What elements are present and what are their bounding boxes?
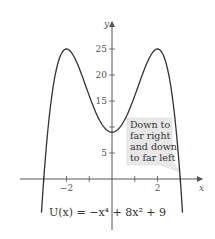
x-axis-label: x [199,183,204,193]
callout-line: far right [130,130,171,141]
callout-line: to far left [130,152,175,163]
y-tick-label: 25 [96,44,108,54]
x-tick-label: 2 [155,183,161,193]
x-tick-label: −2 [60,183,73,193]
function-caption: U(x) = −x⁴ + 8x² + 9 [0,206,215,219]
y-axis-label: y [103,19,110,29]
y-tick-label: 20 [96,70,108,80]
y-tick-label: 5 [101,148,107,158]
callout-line: Down to [130,119,170,130]
annotation-callout: Down tofar rightand downto far left [127,118,180,172]
function-graph: Down tofar rightand downto far left −22 … [0,0,215,239]
y-tick-label: 15 [96,96,108,106]
callout-line: and down [130,141,177,152]
